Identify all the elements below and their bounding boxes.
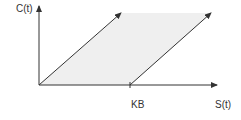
y-axis-label: C(t) xyxy=(16,4,33,14)
shaded-region xyxy=(39,13,211,85)
diagram-canvas xyxy=(0,0,241,120)
x-axis-label: S(t) xyxy=(215,100,231,110)
kb-label: KB xyxy=(131,100,144,110)
